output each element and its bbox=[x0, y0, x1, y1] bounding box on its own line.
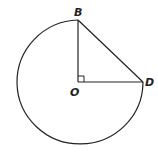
right-angle-marker bbox=[78, 76, 84, 82]
chord-bd bbox=[78, 20, 143, 82]
label-d: D bbox=[145, 76, 154, 89]
circle-diagram: B O D bbox=[0, 0, 158, 162]
label-b: B bbox=[74, 6, 82, 19]
label-o: O bbox=[70, 86, 79, 99]
